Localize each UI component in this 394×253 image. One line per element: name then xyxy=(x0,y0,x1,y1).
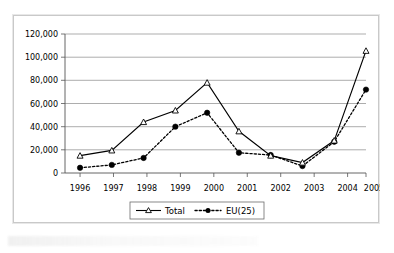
data-point-total xyxy=(363,48,369,54)
legend-label-eu25: EU(25) xyxy=(226,206,255,216)
y-tick-label-0: 0 xyxy=(53,169,58,178)
data-point-eu25 xyxy=(141,155,146,160)
y-tick-label-100000: 100,000 xyxy=(25,53,58,62)
series-line-total xyxy=(80,51,366,163)
gridlines xyxy=(65,34,366,150)
series-line-eu25 xyxy=(80,90,366,168)
chart-frame: 120,000 100,000 80,000 60,000 40,000 20,… xyxy=(13,15,379,223)
data-point-total xyxy=(236,128,242,134)
x-tick-label-1997: 1997 xyxy=(103,184,123,193)
chart-legend: Total EU(25) xyxy=(130,202,264,219)
x-tick-label-2001: 2001 xyxy=(237,184,257,193)
chart-plot-wrapper: 120,000 100,000 80,000 60,000 40,000 20,… xyxy=(14,16,380,224)
x-tick-label-1999: 1999 xyxy=(170,184,190,193)
filled-circle-icon xyxy=(206,208,211,213)
legend-label-total: Total xyxy=(164,206,185,216)
data-point-eu25 xyxy=(77,165,82,170)
series-markers-eu25 xyxy=(77,87,368,171)
data-point-eu25 xyxy=(363,87,368,92)
x-tick-label-2002: 2002 xyxy=(271,184,291,193)
data-point-eu25 xyxy=(109,162,114,167)
y-tick-label-20000: 20,000 xyxy=(30,146,58,155)
y-tick-label-120000: 120,000 xyxy=(25,30,58,39)
scan-artifact-smudge xyxy=(8,236,258,246)
x-tick-label-2004: 2004 xyxy=(337,184,357,193)
y-tick-marks xyxy=(61,34,65,173)
y-tick-label-60000: 60,000 xyxy=(30,100,58,109)
x-tick-label-2005: 2005 xyxy=(364,184,380,193)
x-tick-label-2003: 2003 xyxy=(304,184,324,193)
x-tick-marks xyxy=(80,173,366,177)
data-point-eu25 xyxy=(173,124,178,129)
x-tick-label-2000: 2000 xyxy=(204,184,224,193)
y-tick-label-80000: 80,000 xyxy=(30,76,58,85)
data-point-eu25 xyxy=(236,150,241,155)
x-axis-tick-labels: 1996 1997 1998 1999 2000 2001 2002 2003 … xyxy=(70,184,380,193)
page-canvas: 120,000 100,000 80,000 60,000 40,000 20,… xyxy=(0,0,394,253)
data-point-eu25 xyxy=(204,110,209,115)
y-axis-tick-labels: 120,000 100,000 80,000 60,000 40,000 20,… xyxy=(25,30,58,178)
x-tick-label-1996: 1996 xyxy=(70,184,90,193)
x-tick-label-1998: 1998 xyxy=(137,184,157,193)
line-chart: 120,000 100,000 80,000 60,000 40,000 20,… xyxy=(14,16,380,224)
y-tick-label-40000: 40,000 xyxy=(30,123,58,132)
